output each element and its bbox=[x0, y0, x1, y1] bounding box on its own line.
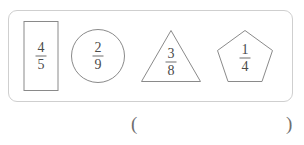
fraction-numerator: 2 bbox=[93, 41, 104, 55]
fraction-numerator: 3 bbox=[166, 47, 177, 61]
shape-item-circle[interactable]: 2 9 bbox=[67, 11, 129, 101]
fraction-label-circle: 2 9 bbox=[93, 41, 104, 72]
fraction-label-triangle: 3 8 bbox=[166, 47, 177, 78]
fraction-denominator: 9 bbox=[93, 58, 104, 72]
answer-line[interactable]: ( ) bbox=[0, 112, 304, 140]
fraction-numerator: 1 bbox=[240, 42, 251, 56]
fraction-denominator: 4 bbox=[240, 59, 251, 73]
answer-open-paren: ( bbox=[131, 112, 137, 136]
shape-item-pentagon[interactable]: 1 4 bbox=[212, 11, 278, 101]
answer-close-paren: ) bbox=[286, 112, 292, 136]
fraction-denominator: 5 bbox=[36, 58, 47, 72]
fraction-denominator: 8 bbox=[166, 64, 177, 78]
fraction-shapes-panel: 4 5 2 9 3 bbox=[8, 10, 293, 102]
shape-item-rectangle[interactable]: 4 5 bbox=[15, 11, 67, 101]
fraction-numerator: 4 bbox=[36, 41, 47, 55]
fraction-label-pentagon: 1 4 bbox=[240, 42, 251, 73]
shapes-row: 4 5 2 9 3 bbox=[9, 11, 292, 101]
fraction-label-rectangle: 4 5 bbox=[36, 41, 47, 72]
shape-item-triangle[interactable]: 3 8 bbox=[137, 11, 205, 101]
